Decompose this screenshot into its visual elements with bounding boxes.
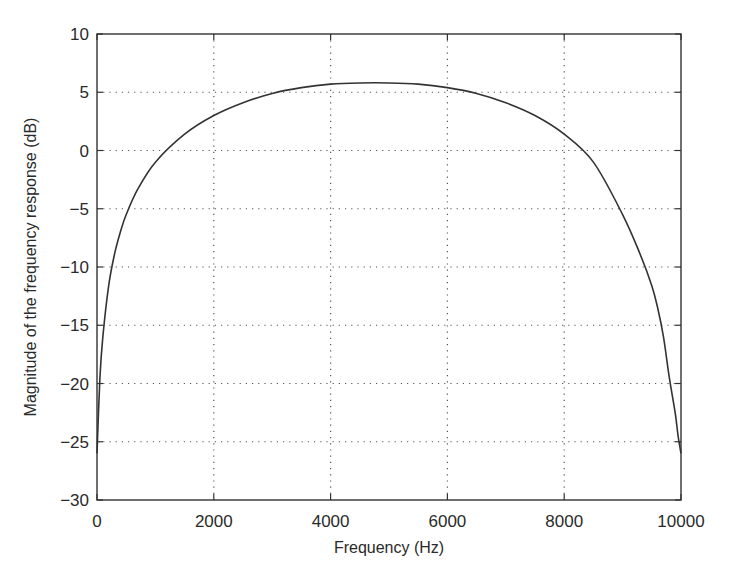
y-tick-label: −10 xyxy=(60,258,89,277)
y-tick-label: 5 xyxy=(80,83,89,102)
x-tick-label: 10000 xyxy=(657,512,704,531)
x-axis-label: Frequency (Hz) xyxy=(334,539,444,556)
grid-lines xyxy=(97,34,681,500)
frequency-response-chart: 1050−5−10−15−20−25−30 020004000600080001… xyxy=(0,0,731,577)
y-tick-labels: 1050−5−10−15−20−25−30 xyxy=(60,25,89,510)
x-tick-label: 2000 xyxy=(195,512,233,531)
x-tick-label: 8000 xyxy=(545,512,583,531)
y-tick-label: 0 xyxy=(80,142,89,161)
x-tick-labels: 0200040006000800010000 xyxy=(92,512,704,531)
y-tick-label: −25 xyxy=(60,433,89,452)
magnitude-curve xyxy=(97,83,681,454)
y-tick-label: −30 xyxy=(60,491,89,510)
x-tick-label: 0 xyxy=(92,512,101,531)
y-tick-label: −15 xyxy=(60,316,89,335)
y-tick-label: 10 xyxy=(70,25,89,44)
x-tick-label: 6000 xyxy=(428,512,466,531)
y-tick-label: −5 xyxy=(70,200,89,219)
y-tick-label: −20 xyxy=(60,375,89,394)
y-axis-label: Magnitude of the frequency response (dB) xyxy=(22,118,39,417)
x-tick-label: 4000 xyxy=(312,512,350,531)
